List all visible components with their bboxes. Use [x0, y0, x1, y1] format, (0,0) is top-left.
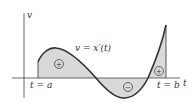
y-axis-label: v: [27, 10, 32, 20]
x-axis-label: t: [183, 78, 187, 88]
shaded-region-negative: [96, 78, 148, 98]
sign-text: +: [56, 61, 62, 69]
right-bound-label: t = b: [157, 80, 180, 90]
curve-label: v = x′(t): [75, 43, 112, 53]
sign-text: +: [156, 68, 162, 76]
velocity-diagram: + − + v t v = x′(t) t = a t = b: [0, 0, 194, 106]
sign-text: −: [125, 84, 131, 92]
left-bound-label: t = a: [30, 80, 52, 90]
